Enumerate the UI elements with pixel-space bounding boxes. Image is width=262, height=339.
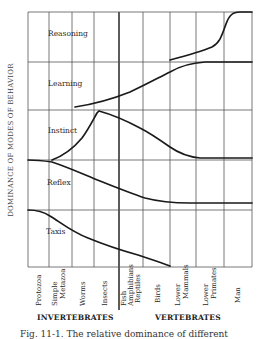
x-label-metazoa: Metazoa — [59, 269, 67, 299]
x-label-simple: Simple — [51, 281, 59, 306]
band-label-reflex: Reflex — [47, 178, 72, 187]
x-label-birds: Birds — [154, 284, 162, 303]
instinct-curve — [52, 111, 252, 160]
band-label-taxis: Taxis — [46, 227, 66, 236]
x-label-protozoa: Protozoa — [35, 275, 43, 306]
reasoning-curve — [170, 12, 252, 60]
band-label-learning: Learning — [48, 79, 83, 88]
x-label-man: Man — [234, 287, 242, 303]
x-label-insects: Insects — [101, 280, 109, 306]
x-label-lower-mammals-2: Mammals — [182, 264, 190, 299]
learning-curve — [75, 62, 252, 107]
figure-caption: Fig. 11-1. The relative dominance of dif… — [20, 329, 228, 339]
x-label-reptiles: Reptiles — [134, 274, 142, 303]
band-label-reasoning: Reasoning — [48, 29, 88, 38]
x-label-lower-primates-1: Lower — [202, 283, 210, 306]
group-label-invertebrates: INVERTEBRATES — [37, 313, 114, 322]
group-label-vertebrates: VERTEBRATES — [155, 313, 221, 322]
x-label-lower-mammals-1: Lower — [174, 283, 182, 306]
x-label-worms: Worms — [79, 281, 87, 306]
x-label-lower-primates-2: Primates — [210, 267, 218, 299]
band-label-instinct: Instinct — [48, 126, 77, 135]
